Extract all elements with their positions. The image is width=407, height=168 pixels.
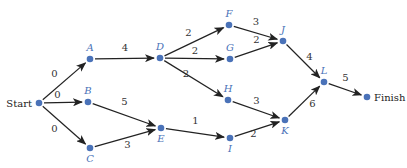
edge-start-a [43, 63, 86, 100]
edge-j-l [287, 45, 320, 78]
node-label-f: F [225, 8, 234, 19]
edge-weight-start-b: 0 [54, 89, 60, 100]
edge-weight-start-c: 0 [51, 123, 57, 134]
edge-l-finish [329, 84, 362, 95]
node-label-g: G [226, 42, 234, 53]
edge-start-c [43, 106, 86, 144]
edge-b-e [93, 104, 156, 126]
node-label-finish: Finish [374, 92, 406, 103]
edge-start-b [44, 102, 82, 103]
node-j [280, 38, 287, 45]
node-a [87, 56, 94, 63]
edge-weight-d-f: 2 [185, 27, 191, 38]
node-start [36, 100, 43, 107]
diagram-svg: 00045322213232465 StartABCDEFGHIJKLFinis… [0, 0, 407, 168]
node-d [157, 55, 164, 62]
edge-weight-d-h: 2 [183, 68, 189, 79]
node-f [226, 22, 233, 29]
node-c [87, 145, 94, 152]
edge-g-j [235, 43, 278, 57]
node-g [227, 56, 234, 63]
edge-weight-f-j: 3 [253, 16, 259, 27]
node-label-start: Start [6, 98, 32, 109]
edge-weight-d-g: 2 [192, 45, 198, 56]
node-b [85, 99, 92, 106]
node-label-d: D [155, 41, 164, 52]
node-label-b: B [83, 85, 91, 96]
node-label-c: C [86, 153, 94, 164]
edge-weight-start-a: 0 [51, 68, 57, 79]
node-label-e: E [156, 133, 165, 144]
edge-d-g [165, 58, 224, 59]
node-k [282, 117, 289, 124]
node-label-a: A [85, 42, 93, 53]
node-finish [364, 94, 371, 101]
edge-e-i [166, 129, 224, 137]
edge-i-k [235, 122, 280, 137]
node-label-k: K [280, 125, 289, 136]
edge-weight-l-finish: 5 [342, 72, 348, 83]
node-l [321, 79, 328, 86]
edge-weight-i-k: 2 [250, 128, 256, 139]
edge-weight-j-l: 4 [306, 51, 312, 62]
activity-network-diagram: 00045322213232465 StartABCDEFGHIJKLFinis… [0, 0, 407, 168]
node-label-j: J [279, 24, 286, 35]
edge-weight-b-e: 5 [121, 96, 127, 107]
edge-weight-g-j: 2 [253, 34, 259, 45]
node-i [227, 135, 234, 142]
node-label-h: H [223, 83, 233, 94]
edge-weight-e-i: 1 [192, 115, 198, 126]
edge-weight-k-l: 6 [309, 98, 315, 109]
edge-a-d [95, 58, 154, 59]
edge-weight-h-k: 3 [253, 95, 259, 106]
node-h [225, 97, 232, 104]
node-label-i: I [227, 143, 233, 154]
edge-d-h [164, 61, 223, 97]
edge-weight-a-d: 4 [122, 42, 128, 53]
node-label-l: L [320, 65, 328, 76]
edge-weight-c-e: 3 [124, 139, 130, 150]
node-e [158, 125, 165, 132]
